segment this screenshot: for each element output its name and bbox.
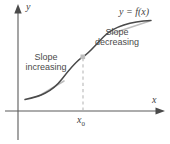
slope-increasing-line-1: Slope — [18, 52, 74, 62]
x-axis-arrowhead-icon — [156, 107, 166, 114]
slope-decreasing-label: Slope decreasing — [86, 27, 148, 47]
x0-tick-label: x0 — [77, 114, 85, 129]
y-axis-arrowhead-icon — [14, 4, 21, 14]
slope-decreasing-line-2: decreasing — [86, 37, 148, 47]
slope-increasing-line-2: increasing — [18, 62, 74, 72]
slope-decreasing-line-1: Slope — [86, 27, 148, 37]
slope-increasing-decreasing-figure: y x y = f(x) Slope increasing Slope decr… — [0, 0, 170, 144]
inflection-point-marker — [81, 55, 86, 60]
function-label: y = f(x) — [119, 6, 149, 17]
x-axis-label: x — [152, 94, 156, 105]
x0-tick-subscript: 0 — [81, 120, 85, 128]
slope-increasing-label: Slope increasing — [18, 52, 74, 72]
y-axis-label: y — [26, 1, 30, 12]
